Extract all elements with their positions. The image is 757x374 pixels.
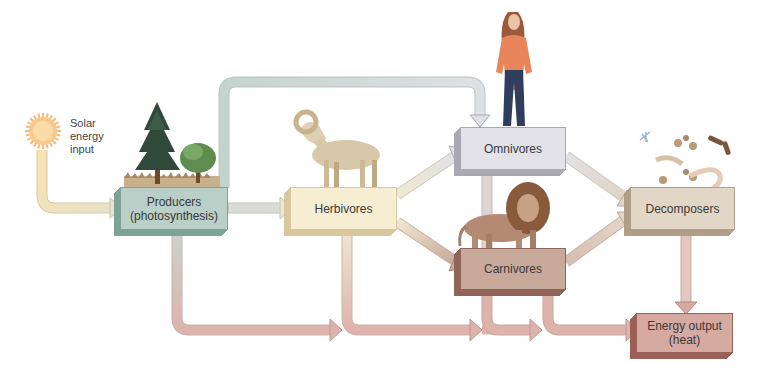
- arrow-carnivores-to-energy-output: [487, 290, 638, 341]
- node-decomposers: Decomposers: [630, 187, 735, 230]
- lion-icon: [460, 182, 550, 250]
- node-carnivores: Carnivores: [460, 248, 566, 290]
- arrow-producers-to-energy-output: [177, 230, 342, 341]
- arrow-producers-to-herbivores: [228, 197, 292, 219]
- node-carnivores-label: Carnivores: [484, 262, 542, 276]
- arrow-decomposers-to-energy-output: [675, 230, 697, 314]
- node-producers: Producers (photosynthesis): [120, 187, 228, 230]
- node-omnivores: Omnivores: [460, 127, 566, 170]
- node-herbivores-label: Herbivores: [314, 202, 372, 216]
- node-herbivores: Herbivores: [290, 187, 397, 230]
- human-icon: [496, 12, 532, 126]
- ram-icon: [296, 112, 380, 188]
- arrow-herbivores-to-carnivores: [397, 222, 466, 271]
- node-decomposers-label: Decomposers: [645, 202, 719, 216]
- node-producers-label: Producers (photosynthesis): [130, 195, 218, 223]
- solar-energy-label: Solar energy input: [70, 117, 104, 156]
- arrow-producers-to-omnivores: [224, 82, 490, 188]
- trees-icon: [124, 102, 220, 188]
- sun-icon: [25, 113, 61, 149]
- arrow-carnivores-to-decomposers: [566, 212, 634, 262]
- arrow-solar-to-producers: [42, 150, 122, 218]
- node-omnivores-label: Omnivores: [484, 142, 542, 156]
- node-energy-output-label: Energy output (heat): [647, 319, 722, 347]
- node-energy-output: Energy output (heat): [636, 313, 733, 353]
- arrow-omnivores-to-decomposers: [566, 156, 634, 206]
- arrow-herbivores-to-omnivores: [397, 146, 466, 195]
